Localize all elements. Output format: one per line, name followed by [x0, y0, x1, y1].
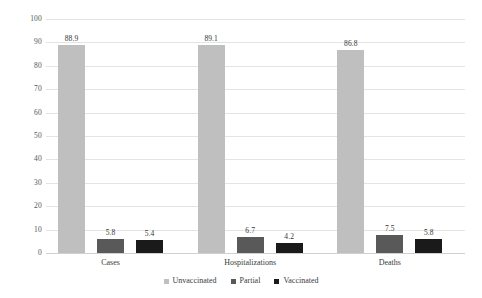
bar-group: 89.16.74.2	[198, 19, 303, 253]
plot-area: 88.95.85.489.16.74.286.87.55.8	[46, 19, 465, 253]
legend-swatch-icon	[274, 279, 279, 284]
x-category-label: Deaths	[330, 258, 450, 268]
bar-partial-cases	[97, 239, 124, 253]
bar-partial-deaths	[376, 235, 403, 253]
y-tick-label: 90	[8, 38, 42, 46]
bar-vaccinated-deaths	[415, 239, 442, 253]
bar-value-label: 5.4	[130, 229, 170, 238]
bar-chart: 0102030405060708090100 88.95.85.489.16.7…	[0, 0, 482, 298]
x-category-label: Cases	[51, 258, 171, 268]
y-tick-label: 30	[8, 179, 42, 187]
y-tick-label: 50	[8, 132, 42, 140]
gridline	[46, 253, 465, 254]
bar-group: 86.87.55.8	[337, 19, 442, 253]
legend-label: Partial	[240, 276, 261, 286]
y-tick-label: 100	[8, 15, 42, 23]
y-tick-label: 80	[8, 62, 42, 70]
bar-value-label: 4.2	[269, 232, 309, 241]
bar-value-label: 89.1	[191, 34, 231, 43]
bar-unvaccinated-hospitalizations	[198, 45, 225, 253]
bar-unvaccinated-deaths	[337, 50, 364, 253]
legend-label: Vaccinated	[283, 276, 318, 286]
legend-item-partial[interactable]: Partial	[231, 276, 261, 286]
bar-value-label: 7.5	[370, 224, 410, 233]
bar-value-label: 5.8	[91, 228, 131, 237]
bar-unvaccinated-cases	[58, 45, 85, 253]
chart-legend: UnvaccinatedPartialVaccinated	[0, 276, 482, 286]
y-tick-label: 10	[8, 226, 42, 234]
y-tick-label: 0	[8, 249, 42, 257]
y-axis: 0102030405060708090100	[0, 19, 42, 253]
bar-value-label: 6.7	[230, 226, 270, 235]
legend-item-unvaccinated[interactable]: Unvaccinated	[164, 276, 217, 286]
legend-swatch-icon	[164, 279, 169, 284]
bar-group: 88.95.85.4	[58, 19, 163, 253]
y-tick-label: 70	[8, 85, 42, 93]
bar-vaccinated-cases	[136, 240, 163, 253]
x-category-label: Hospitalizations	[190, 258, 310, 268]
legend-item-vaccinated[interactable]: Vaccinated	[274, 276, 318, 286]
y-tick-label: 60	[8, 109, 42, 117]
bar-value-label: 88.9	[52, 34, 92, 43]
bar-value-label: 5.8	[409, 228, 449, 237]
y-tick-label: 20	[8, 202, 42, 210]
bar-value-label: 86.8	[331, 39, 371, 48]
legend-label: Unvaccinated	[173, 276, 217, 286]
bar-partial-hospitalizations	[237, 237, 264, 253]
bar-vaccinated-hospitalizations	[276, 243, 303, 253]
y-tick-label: 40	[8, 155, 42, 163]
legend-swatch-icon	[231, 279, 236, 284]
